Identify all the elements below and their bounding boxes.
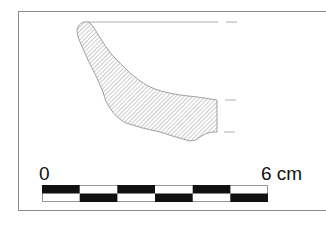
scale-bar xyxy=(42,185,268,202)
scale-end-label: 6 cm xyxy=(261,164,302,183)
sherd-section xyxy=(77,22,217,141)
scale-start-label: 0 xyxy=(39,164,50,183)
